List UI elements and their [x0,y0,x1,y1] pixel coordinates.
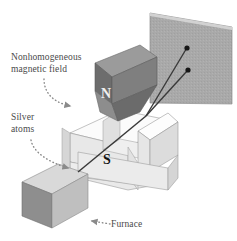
leader-arrow-furnace [92,221,110,224]
silver-deposit-upper [184,45,189,50]
north-pole-letter: N [101,86,111,102]
south-pole-letter: S [103,152,111,168]
north-magnet [95,45,157,121]
figure-canvas [0,0,237,241]
label-nonhomogeneous-magnetic-field: Nonhomogeneous magnetic field [11,52,82,75]
detector-screen [150,13,232,104]
leader-arrow-magnetic-field [44,79,70,106]
label-furnace: Furnace [111,219,142,231]
label-silver-atoms: Silver atoms [11,112,34,135]
silver-deposit-lower [185,67,190,72]
stern-gerlach-figure: Nonhomogeneous magnetic field Silver ato… [0,0,237,241]
furnace-box [22,164,88,228]
